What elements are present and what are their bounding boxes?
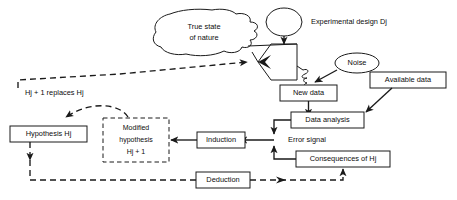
- noise-label: Noise: [348, 58, 367, 67]
- true-state-label-line2: of nature: [189, 33, 218, 42]
- node-available-data: Available data: [366, 72, 446, 112]
- funnel-converge-mid: [252, 52, 258, 62]
- funnel-outlet-line: [297, 66, 303, 70]
- consequences-label: Consequences of Hj: [310, 154, 377, 163]
- edge-analysis-to-error-signal: [274, 120, 291, 134]
- deduction-label: Deduction: [206, 175, 239, 184]
- edge-modified-to-hypothesis: [66, 106, 128, 117]
- edge-noise-to-new-data: [315, 70, 337, 82]
- coil-squiggle: [302, 69, 308, 87]
- node-modified-hypothesis: Modified hypothesis Hj + 1: [103, 118, 169, 162]
- data-analysis-label: Data analysis: [305, 115, 350, 124]
- edge-hypothesis-to-funnel: [18, 62, 247, 88]
- funnel-inner-arrowhead: [258, 55, 271, 69]
- replaces-label: Hj + 1 replaces Hj: [25, 88, 84, 97]
- available-data-label: Available data: [385, 75, 432, 84]
- modified-hypothesis-label-line2: hypothesis: [119, 136, 153, 144]
- node-error-signal: Error signal: [240, 135, 326, 144]
- error-signal-label: Error signal: [288, 135, 326, 144]
- experimental-design-ellipse: [266, 8, 302, 36]
- edge-deduction-mid-arrowhead: [276, 176, 286, 183]
- experimental-design-label: Experimental design Dj: [311, 17, 387, 26]
- node-experimental-design: Experimental design Dj: [266, 8, 387, 44]
- node-induction: Induction: [171, 132, 245, 148]
- induction-label: Induction: [206, 135, 236, 144]
- new-data-label: New data: [293, 88, 325, 97]
- node-deduction: Deduction: [196, 169, 343, 188]
- node-data-analysis: Data analysis: [274, 112, 364, 134]
- edge-available-data-to-analysis: [366, 88, 392, 112]
- hypothesis-label: Hypothesis Hj: [26, 129, 72, 138]
- edge-hypothesis-to-funnel-path: [18, 62, 247, 88]
- node-consequences: Consequences of Hj: [274, 146, 390, 167]
- edge-consequences-to-error-signal: [274, 146, 296, 159]
- true-state-label-line1: True state: [188, 22, 221, 31]
- modified-hypothesis-label-line1: Modified: [123, 124, 150, 131]
- edge-hypothesis-to-deduction-rail: [30, 160, 196, 180]
- modified-hypothesis-label-line3: Hj + 1: [127, 148, 146, 156]
- node-noise: Noise: [315, 53, 379, 82]
- flow-diagram: True state of nature Experimental design…: [0, 0, 457, 200]
- edge-deduction-to-consequences: [250, 169, 343, 180]
- node-true-state-of-nature: True state of nature: [153, 9, 257, 55]
- node-new-data: New data: [280, 85, 337, 116]
- node-funnel-sampler: [248, 44, 297, 80]
